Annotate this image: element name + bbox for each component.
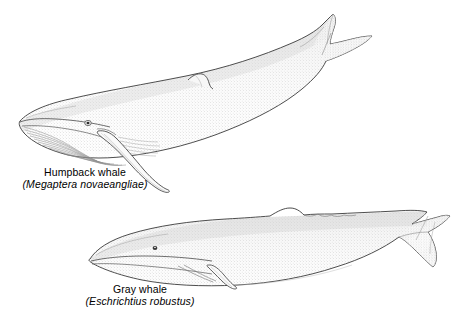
gray-whale-common-name: Gray whale: [55, 283, 225, 295]
humpback-fluke: [314, 14, 372, 61]
whale-comparison-figure: [0, 0, 451, 324]
humpback-common-name: Humpback whale: [0, 166, 170, 178]
gray-whale-label: Gray whale (Eschrichtius robustus): [55, 283, 225, 307]
humpback-eye: [85, 120, 92, 125]
humpback-label: Humpback whale (Megaptera novaeangliae): [0, 166, 170, 190]
gray-whale-scientific-name: (Eschrichtius robustus): [55, 295, 225, 307]
gray-eye: [153, 246, 158, 250]
humpback-scientific-name: (Megaptera novaeangliae): [0, 178, 170, 190]
